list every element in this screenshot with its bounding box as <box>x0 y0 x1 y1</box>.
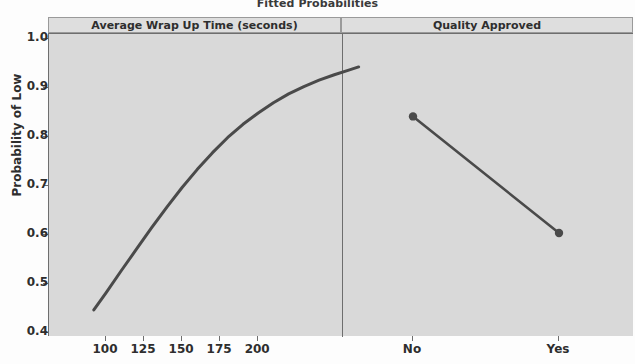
x-tick-mark <box>105 336 106 341</box>
x-tick-mark <box>143 336 144 341</box>
x-tick-mark <box>412 336 413 341</box>
x-axis: 100125150175200NoYes <box>0 0 635 364</box>
fitted-probabilities-chart: Fitted Probabilities Average Wrap Up Tim… <box>0 0 635 364</box>
x-tick-label: 200 <box>227 342 287 356</box>
x-tick-mark <box>181 336 182 341</box>
x-tick-mark <box>219 336 220 341</box>
x-tick-mark <box>257 336 258 341</box>
x-tick-label: No <box>382 342 442 356</box>
x-tick-mark <box>558 336 559 341</box>
x-tick-label: Yes <box>528 342 588 356</box>
